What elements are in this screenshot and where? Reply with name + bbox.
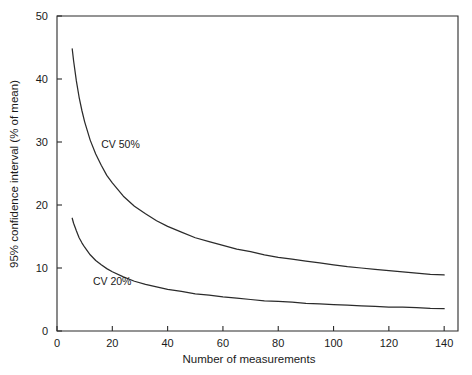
x-axis-tick-labels: 020406080100120140 [54, 337, 453, 349]
x-axis-title: Number of measurements [183, 353, 316, 365]
figure-container: 020406080100120140 01020304050 CV 50%CV … [0, 0, 472, 375]
series-annotation-cv-50: CV 50% [101, 138, 140, 150]
y-axis-title: 95% confidence interval (% of mean) [8, 80, 20, 268]
x-tick-label: 40 [161, 337, 173, 349]
x-tick-label: 100 [324, 337, 342, 349]
y-tick-label: 30 [36, 136, 48, 148]
y-axis-tick-labels: 01020304050 [36, 10, 48, 337]
data-curve-cv-50 [72, 49, 444, 275]
x-tick-label: 20 [106, 337, 118, 349]
y-tick-label: 40 [36, 73, 48, 85]
data-series-group [72, 49, 444, 309]
y-tick-label: 10 [36, 262, 48, 274]
data-curve-cv-20 [72, 218, 444, 308]
y-tick-label: 0 [42, 325, 48, 337]
chart-canvas: 020406080100120140 01020304050 CV 50%CV … [0, 0, 472, 375]
x-tick-label: 140 [435, 337, 453, 349]
x-tick-label: 60 [217, 337, 229, 349]
y-tick-label: 20 [36, 199, 48, 211]
series-annotations: CV 50%CV 20% [93, 138, 140, 287]
x-tick-label: 0 [54, 337, 60, 349]
x-tick-label: 80 [272, 337, 284, 349]
y-axis-ticks [57, 16, 62, 331]
y-tick-label: 50 [36, 10, 48, 22]
series-annotation-cv-20: CV 20% [93, 275, 132, 287]
x-tick-label: 120 [380, 337, 398, 349]
x-axis-ticks [57, 326, 444, 331]
